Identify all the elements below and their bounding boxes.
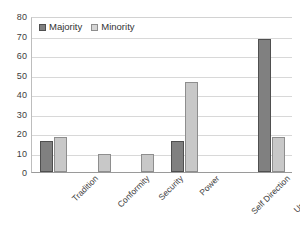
bar-group	[206, 18, 250, 172]
bar-majority-tradition[interactable]	[40, 141, 53, 172]
x-tick-label-power: Power	[198, 174, 221, 197]
x-tick-label-conformity: Conformity	[116, 174, 151, 209]
legend-entry-minority: Minority	[91, 22, 134, 32]
bar-group	[119, 18, 163, 172]
bar-minority-universalism[interactable]	[272, 137, 285, 172]
bar-majority-universalism[interactable]	[258, 39, 271, 172]
legend-entry-majority: Majority	[39, 22, 82, 32]
x-axis: TraditionConformitySecurityPowerSelf Dir…	[31, 174, 292, 234]
bar-group	[76, 18, 120, 172]
y-tick-label: 80	[0, 13, 27, 22]
y-tick-label: 50	[0, 71, 27, 80]
legend-swatch-majority-icon	[39, 24, 46, 31]
bar-group	[163, 18, 207, 172]
y-tick-label: 40	[0, 91, 27, 100]
plot-area: Majority Minority	[31, 17, 292, 173]
y-tick-label: 30	[0, 110, 27, 119]
y-tick-label: 0	[0, 169, 27, 178]
chart-legend: Majority Minority	[39, 22, 135, 32]
y-tick-label: 60	[0, 52, 27, 61]
y-tick-label: 70	[0, 32, 27, 41]
bar-minority-power[interactable]	[185, 82, 198, 172]
bar-majority-power[interactable]	[171, 141, 184, 172]
bars-layer	[32, 18, 292, 172]
bar-chart: 80706050403020100 Majority Minority Trad…	[0, 0, 300, 234]
bar-group	[250, 18, 294, 172]
bar-minority-security[interactable]	[141, 154, 154, 172]
bar-minority-conformity[interactable]	[98, 154, 111, 172]
x-tick-label-universalism: Universalism	[293, 174, 300, 215]
y-tick-label: 20	[0, 130, 27, 139]
y-axis: 80706050403020100	[0, 17, 27, 173]
y-tick-label: 10	[0, 149, 27, 158]
x-tick-label-self-direction: Self Direction	[250, 174, 292, 216]
legend-label-minority: Minority	[101, 22, 134, 32]
x-tick-label-tradition: Tradition	[70, 174, 100, 204]
bar-minority-tradition[interactable]	[54, 137, 67, 172]
bar-group	[32, 18, 76, 172]
x-tick-label-security: Security	[157, 174, 185, 202]
legend-label-majority: Majority	[49, 22, 82, 32]
legend-swatch-minority-icon	[91, 24, 98, 31]
